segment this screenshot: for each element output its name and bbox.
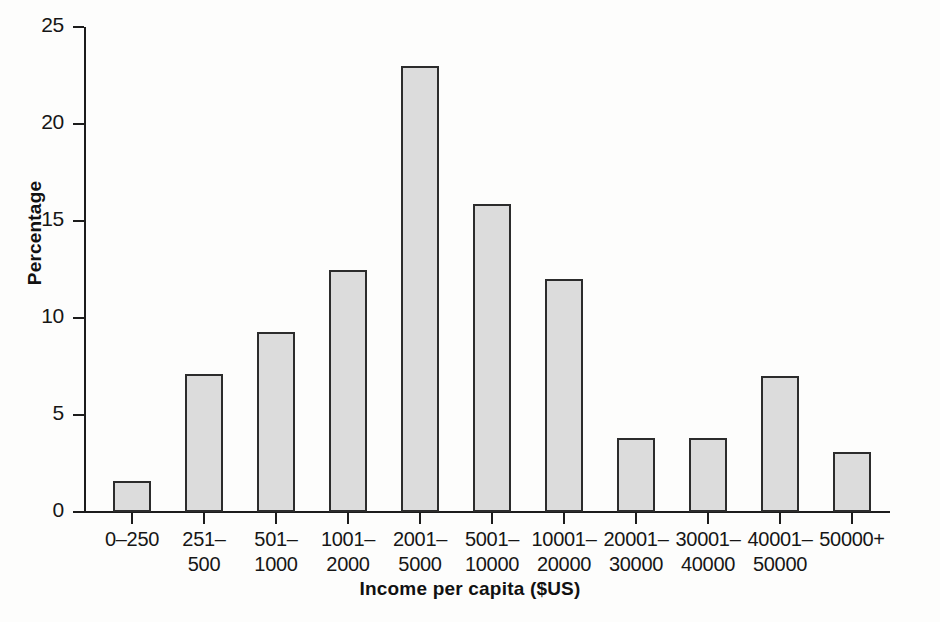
x-tick-mark xyxy=(491,513,493,524)
x-tick-label-line1: 50000+ xyxy=(819,528,885,550)
bar-slot xyxy=(456,27,528,512)
y-tick-mark xyxy=(73,317,84,319)
bar xyxy=(401,66,439,512)
bar-slot xyxy=(96,27,168,512)
bar-slot xyxy=(168,27,240,512)
bar-slot xyxy=(528,27,600,512)
y-tick-label: 20 xyxy=(0,110,64,134)
y-tick-mark xyxy=(73,26,84,28)
x-tick-mark xyxy=(347,513,349,524)
y-tick-label: 5 xyxy=(0,401,64,425)
x-tick-mark xyxy=(275,513,277,524)
bar xyxy=(689,438,727,512)
bar xyxy=(185,374,223,512)
bar-slot xyxy=(600,27,672,512)
bar xyxy=(329,270,367,513)
x-tick-label-line1: 251– xyxy=(182,528,225,550)
y-tick-mark xyxy=(73,414,84,416)
y-tick-label: 15 xyxy=(0,207,64,231)
bar-slot xyxy=(312,27,384,512)
chart-figure: Percentage 0510152025 0–250251–500501–10… xyxy=(0,0,940,622)
y-tick-label: 25 xyxy=(0,13,64,37)
bar xyxy=(473,204,511,512)
y-tick-mark xyxy=(73,220,84,222)
x-tick-mark xyxy=(563,513,565,524)
bar-slot xyxy=(816,27,888,512)
x-tick-mark xyxy=(851,513,853,524)
bar-slot xyxy=(240,27,312,512)
bar-slot xyxy=(384,27,456,512)
y-tick-mark xyxy=(73,511,84,513)
x-tick-label-line2: 50000 xyxy=(726,552,834,577)
x-tick-mark xyxy=(779,513,781,524)
bar xyxy=(545,279,583,512)
y-tick-label: 10 xyxy=(0,304,64,328)
y-tick-label: 0 xyxy=(0,498,64,522)
x-tick-mark xyxy=(707,513,709,524)
bar-slot xyxy=(744,27,816,512)
bar xyxy=(257,332,295,512)
y-axis-title: Percentage xyxy=(24,143,46,323)
bar-slot xyxy=(672,27,744,512)
bar xyxy=(113,481,151,512)
x-tick-label-line1: 501– xyxy=(254,528,297,550)
x-tick-mark xyxy=(131,513,133,524)
x-tick-mark xyxy=(419,513,421,524)
x-axis-title: Income per capita ($US) xyxy=(0,578,940,600)
x-tick-label: 50000+ xyxy=(798,527,906,552)
bar xyxy=(761,376,799,512)
x-tick-mark xyxy=(203,513,205,524)
bar xyxy=(617,438,655,512)
plot-area xyxy=(84,27,884,512)
x-tick-mark xyxy=(635,513,637,524)
bar xyxy=(833,452,871,512)
y-tick-mark xyxy=(73,123,84,125)
